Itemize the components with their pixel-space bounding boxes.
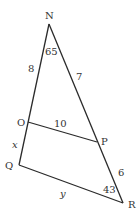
vertex-label-o: O bbox=[17, 117, 25, 128]
segment-np-label: 7 bbox=[76, 71, 82, 82]
vertex-label-q: Q bbox=[5, 160, 13, 171]
segment-qr-label: y bbox=[59, 188, 66, 199]
segment-pr-label: 6 bbox=[118, 167, 124, 178]
vertex-label-n: N bbox=[45, 10, 54, 21]
angle-r-label: 43 bbox=[103, 184, 116, 195]
segment-nr bbox=[49, 24, 123, 203]
segment-op-label: 10 bbox=[54, 118, 67, 129]
segment-oq-label: x bbox=[12, 139, 18, 150]
vertex-label-r: R bbox=[128, 199, 136, 210]
triangle-diagram: N O Q P R 65 8 7 10 x 6 43 y bbox=[0, 0, 139, 221]
segment-no-label: 8 bbox=[28, 63, 34, 74]
vertex-label-p: P bbox=[101, 136, 108, 147]
angle-n-label: 65 bbox=[45, 46, 58, 57]
